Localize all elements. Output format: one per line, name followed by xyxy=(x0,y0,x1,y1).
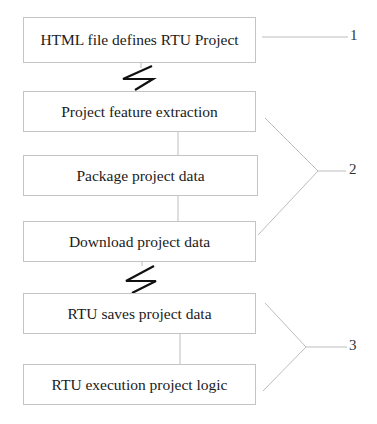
lightning-icon-2 xyxy=(126,266,156,293)
step-rtu-saves-project-data: RTU saves project data xyxy=(23,293,256,334)
reference-label-3: 3 xyxy=(349,337,357,354)
step-package-project-data: Package project data xyxy=(23,155,258,196)
lightning-icon-1 xyxy=(123,66,153,90)
step-label: Project feature extraction xyxy=(61,103,218,121)
step-label: Download project data xyxy=(69,233,210,251)
step-project-feature-extraction: Project feature extraction xyxy=(23,91,256,132)
step-label: HTML file defines RTU Project xyxy=(40,31,238,49)
bracket-3 xyxy=(263,303,306,391)
step-download-project-data: Download project data xyxy=(23,221,256,262)
step-label: RTU saves project data xyxy=(67,305,211,323)
step-html-file-defines-project: HTML file defines RTU Project xyxy=(23,17,256,63)
step-rtu-execution-project-logic: RTU execution project logic xyxy=(23,364,256,405)
step-label: Package project data xyxy=(76,167,204,185)
bracket-2 xyxy=(258,118,318,235)
reference-label-2: 2 xyxy=(349,161,357,178)
step-label: RTU execution project logic xyxy=(52,376,228,394)
reference-label-1: 1 xyxy=(350,27,358,44)
connector-lines xyxy=(0,0,377,424)
